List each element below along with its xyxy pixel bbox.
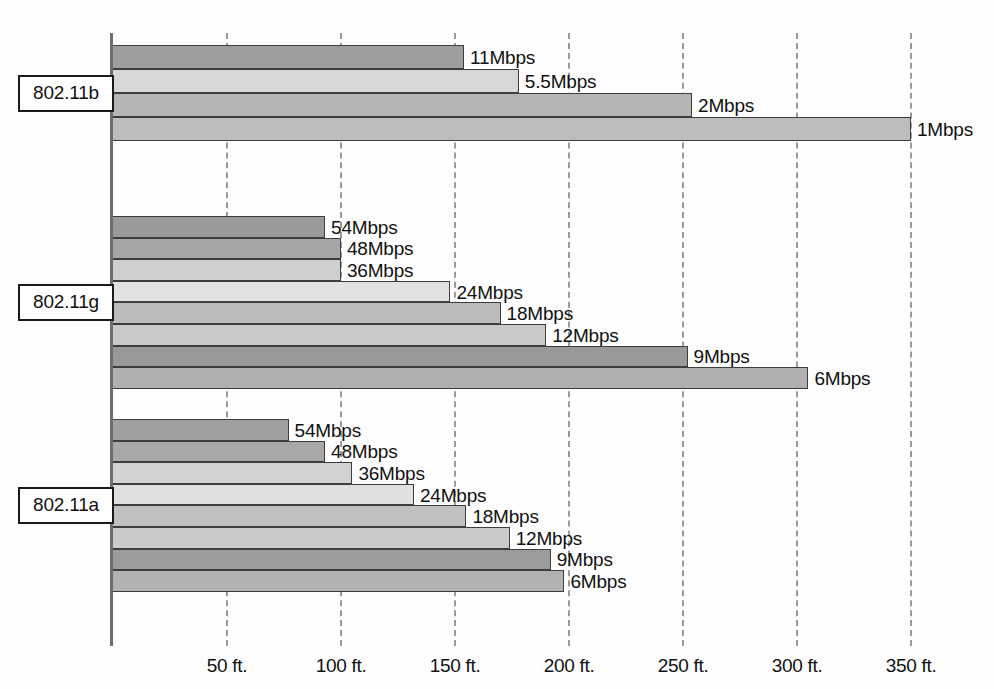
bar-802.11a-9Mbps: [113, 549, 551, 571]
bar-value-label: 12Mbps: [516, 529, 582, 548]
bar-802.11a-54Mbps: [113, 419, 289, 441]
bar-802.11g-24Mbps: [113, 281, 450, 303]
bar-value-label: 24Mbps: [456, 283, 522, 302]
bar-value-label: 11Mbps: [470, 48, 535, 67]
bar-value-label: 48Mbps: [347, 239, 413, 258]
group-label-802.11b: 802.11b: [18, 75, 114, 112]
bar-value-label: 54Mbps: [295, 421, 361, 440]
bar-802.11a-24Mbps: [113, 484, 414, 506]
bar-802.11a-36Mbps: [113, 462, 352, 484]
bar-value-label: 2Mbps: [698, 96, 754, 115]
bar-802.11g-6Mbps: [113, 367, 808, 389]
bar-802.11g-54Mbps: [113, 216, 325, 238]
bar-value-label: 18Mbps: [472, 507, 538, 526]
bar-value-label: 36Mbps: [358, 464, 424, 483]
x-tick-label-300: 300 ft.: [772, 655, 823, 677]
bar-802.11b-5.5Mbps: [113, 69, 519, 93]
x-tick-label-50: 50 ft.: [207, 655, 247, 677]
bar-value-label: 6Mbps: [570, 572, 626, 591]
bar-value-label: 6Mbps: [814, 369, 870, 388]
bar-value-label: 48Mbps: [331, 442, 397, 461]
bar-value-label: 24Mbps: [420, 486, 486, 505]
bar-value-label: 9Mbps: [557, 550, 613, 569]
bar-value-label: 12Mbps: [552, 326, 618, 345]
wifi-range-bar-chart: 11Mbps5.5Mbps2Mbps1Mbps54Mbps48Mbps36Mbp…: [0, 0, 994, 689]
bar-802.11a-48Mbps: [113, 441, 325, 463]
group-label-802.11a: 802.11a: [18, 487, 114, 524]
group-label-802.11g: 802.11g: [18, 284, 114, 321]
bar-802.11g-36Mbps: [113, 259, 341, 281]
bar-802.11a-18Mbps: [113, 505, 466, 527]
bar-802.11a-12Mbps: [113, 527, 510, 549]
bar-value-label: 5.5Mbps: [525, 72, 596, 91]
x-tick-label-200: 200 ft.: [544, 655, 595, 677]
bar-value-label: 9Mbps: [694, 347, 750, 366]
bar-value-label: 1Mbps: [917, 120, 973, 139]
bar-802.11g-18Mbps: [113, 302, 501, 324]
x-tick-label-100: 100 ft.: [316, 655, 367, 677]
bar-value-label: 18Mbps: [507, 304, 573, 323]
bar-value-label: 36Mbps: [347, 261, 413, 280]
bar-802.11b-1Mbps: [113, 117, 911, 141]
bar-802.11b-2Mbps: [113, 93, 692, 117]
x-tick-label-350: 350 ft.: [886, 655, 937, 677]
x-tick-label-250: 250 ft.: [658, 655, 709, 677]
bar-802.11a-6Mbps: [113, 570, 564, 592]
bar-802.11b-11Mbps: [113, 45, 464, 69]
bar-802.11g-48Mbps: [113, 238, 341, 260]
bar-value-label: 54Mbps: [331, 218, 397, 237]
plot-area: 11Mbps5.5Mbps2Mbps1Mbps54Mbps48Mbps36Mbp…: [113, 33, 911, 646]
bar-802.11g-9Mbps: [113, 346, 688, 368]
x-tick-label-150: 150 ft.: [430, 655, 481, 677]
bar-802.11g-12Mbps: [113, 324, 546, 346]
